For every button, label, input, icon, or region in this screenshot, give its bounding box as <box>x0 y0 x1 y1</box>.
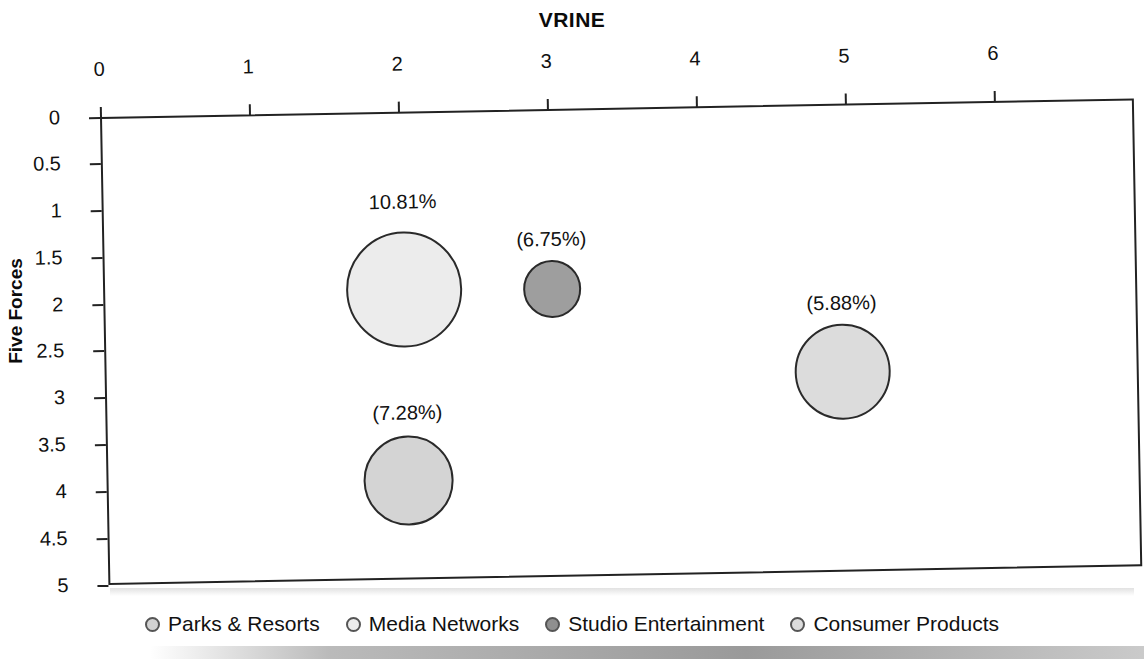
y-axis-title: Five Forces <box>5 251 27 371</box>
x-tick-mark <box>696 96 698 107</box>
x-tick-label: 1 <box>242 55 254 78</box>
legend-label: Consumer Products <box>813 612 999 636</box>
bubble-label-consumer-products: (5.88%) <box>806 291 876 315</box>
y-tick-label: 2.5 <box>36 339 64 362</box>
x-axis-ticks: 0123456 <box>0 0 1142 2</box>
bubble-label-parks-and-resorts: (7.28%) <box>372 401 442 425</box>
y-tick-label: 3.5 <box>38 433 66 456</box>
legend-label: Studio Entertainment <box>568 612 764 636</box>
legend-label: Media Networks <box>369 612 520 636</box>
x-tick-label: 4 <box>689 47 701 70</box>
x-tick-label: 5 <box>838 45 850 68</box>
x-tick-mark <box>845 94 847 105</box>
legend-marker-circle-icon <box>346 617 361 632</box>
bubble-label-media-networks: 10.81% <box>368 190 436 214</box>
legend-item[interactable]: Consumer Products <box>790 612 999 636</box>
chart-legend: Parks & ResortsMedia NetworksStudio Ente… <box>0 612 1144 636</box>
bubble-label-studio-entertainment: (6.75%) <box>516 227 586 251</box>
bubble-layer: 10.81%(6.75%)(7.28%)(5.88%) <box>0 0 1142 2</box>
legend-label: Parks & Resorts <box>168 612 320 636</box>
y-tick-mark <box>93 350 104 352</box>
y-tick-mark <box>92 304 103 306</box>
y-tick-mark <box>89 117 100 119</box>
y-tick-label: 0.5 <box>33 152 61 175</box>
y-axis-ticks: 00.511.522.533.544.55 <box>0 0 1142 2</box>
x-tick-mark <box>994 91 996 102</box>
x-tick-mark <box>100 107 102 118</box>
x-tick-mark <box>547 99 549 110</box>
y-tick-mark <box>90 163 101 165</box>
legend-marker-circle-icon <box>790 617 805 632</box>
legend-marker-circle-icon <box>145 617 160 632</box>
x-tick-mark <box>249 104 251 115</box>
y-tick-mark <box>92 257 103 259</box>
y-tick-mark <box>94 397 105 399</box>
y-tick-mark <box>96 491 107 493</box>
y-tick-label: 2 <box>52 293 64 316</box>
y-tick-label: 5 <box>57 574 69 597</box>
y-tick-mark <box>97 538 108 540</box>
plot-group: 0123456 00.511.522.533.544.55 10.81%(6.7… <box>0 0 1144 659</box>
legend-item[interactable]: Studio Entertainment <box>545 612 764 636</box>
chart-canvas: VRINE 0123456 00.511.522.533.544.55 10.8… <box>0 0 1144 659</box>
x-tick-label: 3 <box>540 50 552 73</box>
scan-shadow-upper <box>110 588 1134 596</box>
y-tick-label: 0 <box>49 106 61 129</box>
y-tick-label: 4.5 <box>40 527 68 550</box>
x-tick-label: 0 <box>93 58 105 81</box>
y-tick-mark <box>91 210 102 212</box>
y-tick-label: 4 <box>55 480 67 503</box>
y-tick-mark <box>97 585 108 587</box>
y-tick-label: 3 <box>54 386 66 409</box>
legend-item[interactable]: Parks & Resorts <box>145 612 320 636</box>
x-tick-label: 2 <box>391 53 403 76</box>
y-tick-mark <box>95 444 106 446</box>
x-tick-mark <box>398 102 400 113</box>
scan-shadow-strip <box>150 646 1144 659</box>
y-tick-label: 1 <box>50 199 62 222</box>
legend-item[interactable]: Media Networks <box>346 612 520 636</box>
plot-frame <box>100 98 1142 585</box>
legend-marker-circle-icon <box>545 617 560 632</box>
y-tick-label: 1.5 <box>35 246 63 269</box>
x-tick-label: 6 <box>987 42 999 65</box>
